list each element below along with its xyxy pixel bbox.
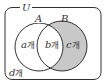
- venn-diagram: U A B a개 b개 c개 d개: [0, 0, 107, 84]
- region-a-and-b-count: b개: [45, 39, 59, 50]
- universe-label: U: [22, 2, 31, 13]
- region-outside-count: d개: [9, 67, 23, 78]
- set-a-label: A: [34, 13, 42, 24]
- region-b-only-count: c개: [66, 39, 80, 50]
- region-a-only-count: a개: [21, 39, 35, 50]
- set-b-label: B: [60, 13, 68, 24]
